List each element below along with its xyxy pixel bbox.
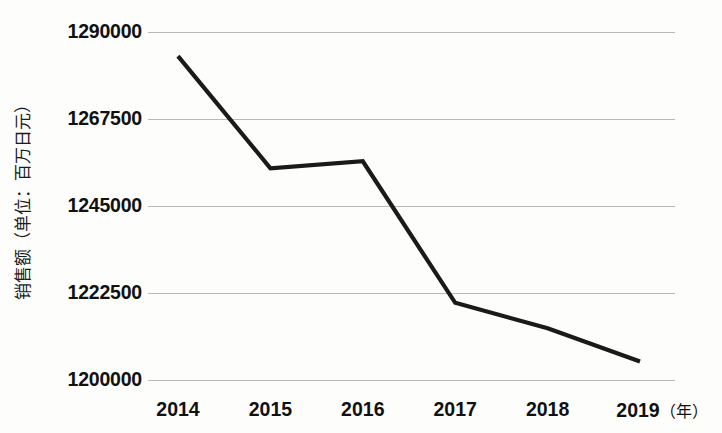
- y-axis-tick-labels: 12900001267500124500012225001200000: [8, 0, 142, 433]
- y-axis-tick-label: 1290000: [12, 20, 142, 43]
- x-axis-tick-label: 2015: [249, 398, 292, 421]
- x-axis-unit-label: （年）: [660, 402, 708, 421]
- x-axis-tick-labels: 201420152016201720182019（年）: [0, 398, 722, 433]
- x-axis-tick-label: 2017: [433, 398, 476, 421]
- y-axis-tick-label: 1222500: [12, 281, 142, 304]
- x-axis-tick-label: 2018: [526, 398, 569, 421]
- series-polyline: [178, 56, 640, 361]
- x-axis-tick-label: 2019（年）: [616, 398, 707, 422]
- x-axis-tick-label: 2014: [156, 398, 199, 421]
- x-axis-tick-label: 2016: [341, 398, 384, 421]
- y-axis-tick-label: 1267500: [12, 107, 142, 130]
- data-series-line: [148, 0, 675, 433]
- line-chart: 销售额（单位：百万日元） 129000012675001245000122250…: [0, 0, 722, 433]
- y-axis-tick-label: 1245000: [12, 194, 142, 217]
- y-axis-tick-label: 1200000: [12, 368, 142, 391]
- plot-area: [148, 0, 675, 433]
